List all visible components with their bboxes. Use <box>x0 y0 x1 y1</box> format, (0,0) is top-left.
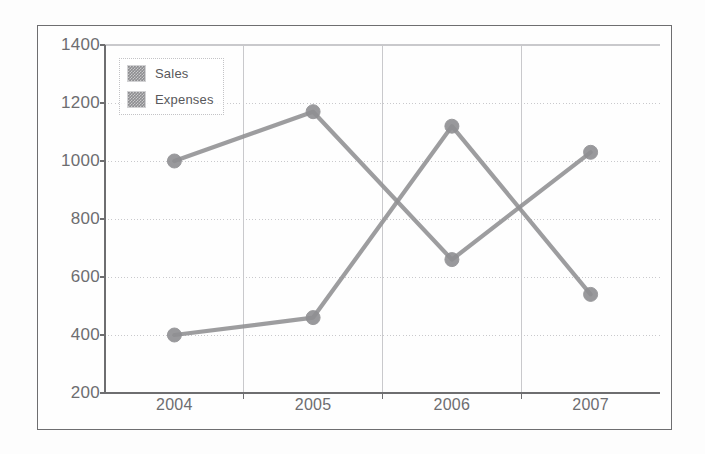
x-axis-tick-label: 2007 <box>572 396 609 414</box>
data-point <box>445 119 459 133</box>
data-point <box>584 145 598 159</box>
y-axis-tick-labels: 200400600800100012001400 <box>40 0 100 454</box>
legend-label-expenses: Expenses <box>155 92 214 107</box>
data-point <box>167 328 181 342</box>
legend-item-expenses[interactable]: Expenses <box>127 91 214 108</box>
y-axis-tick-label: 1400 <box>44 35 100 55</box>
legend-swatch-sales <box>127 65 146 82</box>
chart-legend: Sales Expenses <box>119 58 224 115</box>
y-axis-tick-label: 1000 <box>44 151 100 171</box>
x-axis-tick-label: 2005 <box>295 396 332 414</box>
line-chart-plot <box>0 0 705 454</box>
data-point <box>167 154 181 168</box>
x-axis-tick-label: 2006 <box>433 396 470 414</box>
x-axis-tick-label: 2004 <box>156 396 193 414</box>
data-point <box>445 253 459 267</box>
legend-swatch-expenses <box>127 91 146 108</box>
y-axis-tick-label: 400 <box>44 325 100 345</box>
legend-item-sales[interactable]: Sales <box>127 65 214 82</box>
data-point <box>306 311 320 325</box>
y-axis-tick-label: 1200 <box>44 93 100 113</box>
x-axis-tick-labels: 2004200520062007 <box>0 396 705 426</box>
y-axis-tick-label: 800 <box>44 209 100 229</box>
data-point <box>584 287 598 301</box>
y-axis-tick-label: 600 <box>44 267 100 287</box>
data-point <box>306 105 320 119</box>
chart-figure: 200400600800100012001400 200420052006200… <box>0 0 705 454</box>
legend-label-sales: Sales <box>155 66 189 81</box>
